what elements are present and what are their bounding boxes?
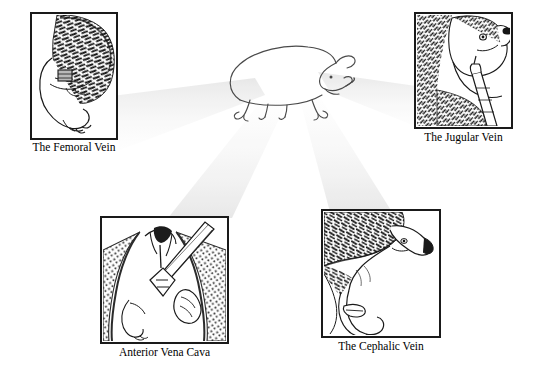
panel-anterior-vena-cava[interactable]: Anterior Vena Cava xyxy=(101,217,228,358)
panel-jugular-caption: The Jugular Vein xyxy=(424,131,503,144)
panel-femoral-caption: The Femoral Vein xyxy=(33,141,116,153)
hedgehog-blood-sampling-figure: The Femoral Vein xyxy=(0,0,541,369)
panel-jugular[interactable]: The Jugular Vein xyxy=(415,13,512,144)
panel-femoral[interactable]: The Femoral Vein xyxy=(31,13,117,153)
panel-cephalic-caption: The Cephalic Vein xyxy=(338,340,424,353)
panel-avc-caption: Anterior Vena Cava xyxy=(119,346,210,358)
panel-cephalic[interactable]: The Cephalic Vein xyxy=(322,210,440,353)
